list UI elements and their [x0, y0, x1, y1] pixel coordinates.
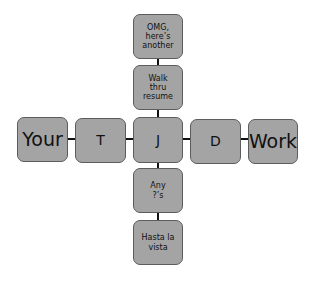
node-work-label: Work — [249, 131, 297, 153]
node-work: Work — [248, 119, 298, 164]
connector-d-work — [241, 138, 248, 140]
node-any-questions: Any ?’s — [133, 168, 183, 213]
node-your-label: Your — [22, 129, 63, 151]
node-j: J — [133, 117, 183, 163]
node-omg: OMG, here’s another — [133, 14, 183, 59]
connector-t-j — [126, 138, 133, 140]
connector-walk-j — [157, 110, 159, 117]
node-t-label: T — [96, 132, 105, 148]
node-d-label: D — [210, 133, 221, 149]
node-walk-label: Walk thru resume — [143, 74, 173, 102]
connector-your-t — [68, 138, 75, 140]
node-any-label: Any ?’s — [150, 181, 165, 199]
connector-any-hasta — [157, 213, 159, 220]
node-d: D — [190, 119, 241, 164]
node-t: T — [75, 118, 126, 163]
node-j-label: J — [156, 132, 160, 148]
node-omg-label: OMG, here’s another — [142, 23, 173, 51]
node-hasta-la-vista: Hasta la vista — [133, 220, 183, 265]
connector-j-d — [183, 138, 190, 140]
diagram-canvas: OMG, here’s another Walk thru resume You… — [0, 0, 313, 281]
node-walk-thru-resume: Walk thru resume — [133, 65, 183, 110]
node-hasta-label: Hasta la vista — [142, 233, 175, 251]
node-your: Your — [17, 117, 68, 162]
